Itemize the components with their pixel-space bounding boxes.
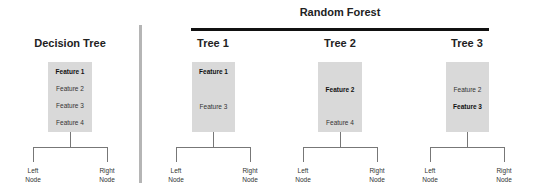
left-node-line2: Node bbox=[415, 175, 445, 184]
random-forest-bar bbox=[191, 28, 489, 31]
feature-label: Feature 3 bbox=[446, 103, 489, 110]
branch-stem bbox=[340, 132, 341, 147]
branch-split bbox=[303, 147, 378, 148]
feature-box bbox=[446, 62, 489, 132]
left-node: Left Node bbox=[18, 166, 48, 184]
feature-label: Feature 2 bbox=[318, 86, 362, 93]
right-node: Right Node bbox=[235, 166, 265, 184]
left-node: Left Node bbox=[288, 166, 318, 184]
right-node-line1: Right bbox=[235, 166, 265, 175]
feature-label: Feature 1 bbox=[48, 68, 92, 75]
right-node-line2: Node bbox=[235, 175, 265, 184]
left-node-line1: Left bbox=[415, 166, 445, 175]
branch-left bbox=[430, 147, 431, 162]
right-node-line1: Right bbox=[92, 166, 122, 175]
left-node-line1: Left bbox=[161, 166, 191, 175]
branch-right bbox=[377, 147, 378, 162]
feature-label: Feature 1 bbox=[192, 68, 235, 75]
right-node: Right Node bbox=[489, 166, 519, 184]
left-node-line1: Left bbox=[18, 166, 48, 175]
left-node-line2: Node bbox=[18, 175, 48, 184]
branch-stem bbox=[467, 132, 468, 147]
branch-split bbox=[176, 147, 251, 148]
branch-split bbox=[430, 147, 505, 148]
left-node-line2: Node bbox=[161, 175, 191, 184]
section-separator bbox=[139, 25, 142, 183]
feature-label: Feature 3 bbox=[192, 103, 235, 110]
left-node: Left Node bbox=[415, 166, 445, 184]
branch-stem bbox=[70, 132, 71, 147]
tree-title: Tree 2 bbox=[290, 37, 390, 49]
feature-label: Feature 4 bbox=[318, 119, 362, 126]
tree-title: Decision Tree bbox=[10, 37, 130, 49]
right-node-line2: Node bbox=[362, 175, 392, 184]
right-node: Right Node bbox=[92, 166, 122, 184]
branch-stem bbox=[213, 132, 214, 147]
right-node-line2: Node bbox=[489, 175, 519, 184]
random-forest-title: Random Forest bbox=[191, 6, 489, 18]
feature-label: Feature 2 bbox=[446, 86, 489, 93]
branch-right bbox=[250, 147, 251, 162]
branch-left bbox=[303, 147, 304, 162]
right-node: Right Node bbox=[362, 166, 392, 184]
left-node: Left Node bbox=[161, 166, 191, 184]
feature-label: Feature 4 bbox=[48, 119, 92, 126]
branch-split bbox=[33, 147, 108, 148]
tree-title: Tree 1 bbox=[163, 37, 263, 49]
left-node-line2: Node bbox=[288, 175, 318, 184]
feature-label: Feature 3 bbox=[48, 102, 92, 109]
branch-left bbox=[176, 147, 177, 162]
left-node-line1: Left bbox=[288, 166, 318, 175]
feature-label: Feature 2 bbox=[48, 85, 92, 92]
right-node-line2: Node bbox=[92, 175, 122, 184]
right-node-line1: Right bbox=[489, 166, 519, 175]
branch-right bbox=[504, 147, 505, 162]
branch-right bbox=[107, 147, 108, 162]
branch-left bbox=[33, 147, 34, 162]
right-node-line1: Right bbox=[362, 166, 392, 175]
tree-title: Tree 3 bbox=[417, 37, 517, 49]
